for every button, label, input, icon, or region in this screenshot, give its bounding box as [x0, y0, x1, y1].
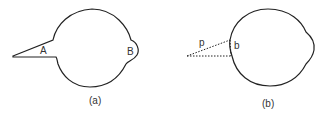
diagram-canvas — [0, 0, 324, 118]
caption-a: (a) — [89, 96, 101, 106]
figure-b-shape — [230, 9, 315, 86]
label-p: p — [199, 38, 205, 48]
caption-b: (b) — [262, 99, 274, 109]
label-b-lower: b — [234, 41, 240, 51]
figure-a-shape — [13, 9, 138, 87]
figure-b-dotted-lines — [187, 40, 232, 56]
label-b-upper: B — [127, 47, 134, 57]
label-a: A — [40, 46, 47, 56]
